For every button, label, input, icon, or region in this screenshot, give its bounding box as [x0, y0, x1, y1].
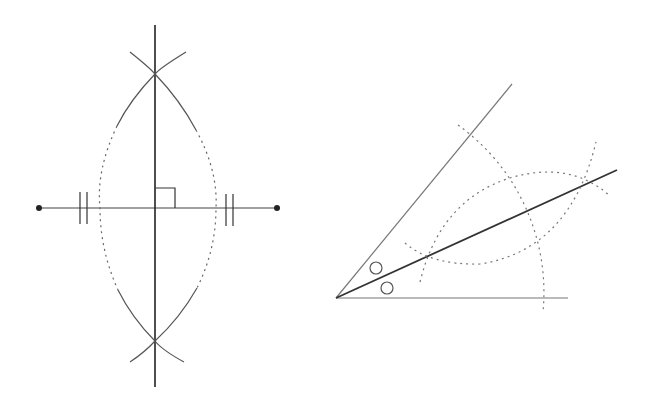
- arc-lens-lower: [405, 142, 596, 264]
- arc-left-top-solid: [117, 52, 186, 126]
- right-angle-marker: [155, 188, 175, 208]
- arc-left-bottom-solid: [118, 290, 184, 362]
- arc-lens-upper: [420, 172, 610, 282]
- endpoint-right: [274, 205, 280, 211]
- construction-diagram: [0, 0, 646, 408]
- ray-upper: [336, 84, 512, 298]
- perpendicular-bisector-figure: [36, 25, 280, 387]
- arc-from-vertex: [458, 125, 544, 312]
- equal-ticks-right: [226, 194, 233, 226]
- angle-bisector-line: [336, 170, 617, 298]
- arc-right-dotted: [196, 130, 216, 288]
- angle-mark-upper: [370, 262, 382, 274]
- endpoint-left: [36, 205, 42, 211]
- angle-mark-lower: [381, 282, 393, 294]
- angle-bisector-figure: [336, 84, 617, 312]
